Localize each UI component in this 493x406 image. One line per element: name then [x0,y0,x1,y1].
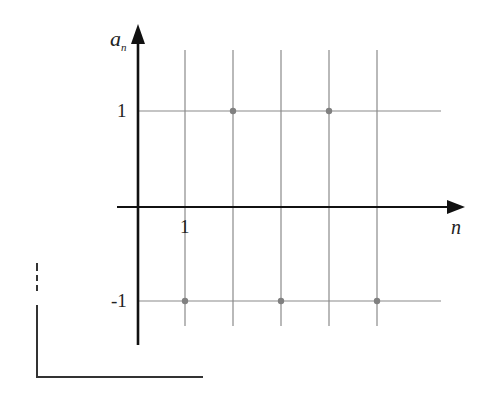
x-axis-arrow-icon [447,200,465,214]
x-axis-label: n [451,216,461,239]
chart-canvas [0,0,493,406]
y-axis-arrow-icon [131,24,145,44]
y-axis-label-sub: n [121,41,127,53]
y-tick-label-1: 1 [117,100,127,122]
y-tick-label-neg1: -1 [111,290,127,312]
y-axis-label-main: a [110,26,121,51]
y-axis-label: an [110,26,127,53]
corner-bracket [36,263,203,377]
grid-vertical-lines [185,50,377,326]
x-tick-label-1: 1 [180,216,190,238]
